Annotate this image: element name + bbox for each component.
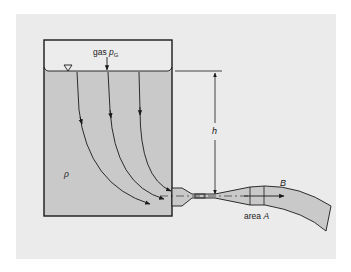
diagram: gas pG ρ h B area A [0, 0, 351, 272]
height-label: h [212, 126, 217, 136]
density-label: ρ [63, 169, 69, 179]
area-label: area A [244, 211, 269, 221]
point-b-label: B [280, 178, 286, 188]
